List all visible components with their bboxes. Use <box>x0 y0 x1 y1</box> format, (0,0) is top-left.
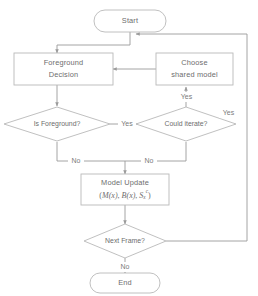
edge-label-is-foreground-no: No <box>68 156 84 166</box>
node-choose-shared-model[interactable]: Choose shared model <box>156 53 233 85</box>
node-foreground-decision-label-line2: Decision <box>49 70 79 79</box>
edge-label-could-iterate-no: No <box>141 156 157 166</box>
node-is-foreground[interactable]: Is Foreground? <box>4 107 110 141</box>
formula-close: ) <box>148 191 151 200</box>
edge-is-foreground-no-to-model-update <box>57 142 125 161</box>
node-choose-shared-model-label-line1: Choose <box>181 58 207 67</box>
node-could-iterate-label: Could iterate? <box>165 120 208 127</box>
flowchart-svg: Start Foreground Decision Choose shared … <box>0 0 258 296</box>
node-end[interactable]: End <box>90 273 160 293</box>
flowchart-canvas: Start Foreground Decision Choose shared … <box>0 0 258 296</box>
edge-label-next-frame-no: No <box>117 262 133 272</box>
svg-text:No: No <box>72 157 81 164</box>
node-start[interactable]: Start <box>94 10 166 32</box>
node-next-frame[interactable]: Next Frame? <box>84 224 166 258</box>
edge-label-could-iterate-yes: Yes <box>177 92 196 102</box>
svg-text:Yes: Yes <box>223 109 235 116</box>
svg-text:Yes: Yes <box>181 93 193 100</box>
svg-text:Yes: Yes <box>121 120 133 127</box>
node-foreground-decision[interactable]: Foreground Decision <box>14 53 113 85</box>
edge-label-next-frame-yes: Yes <box>219 108 238 118</box>
svg-text:No: No <box>145 157 154 164</box>
formula-m-arg: (x) <box>109 191 118 200</box>
edge-label-is-foreground-yes: Yes <box>118 119 136 129</box>
node-model-update-formula: (M(x), B(x), Sxc) <box>99 189 151 201</box>
formula-b-arg: (x) <box>126 191 135 200</box>
node-is-foreground-label: Is Foreground? <box>34 120 81 128</box>
node-model-update-label-line1: Model Update <box>101 178 149 187</box>
node-start-label: Start <box>122 16 138 25</box>
node-next-frame-label: Next Frame? <box>105 237 145 244</box>
node-model-update[interactable]: Model Update (M(x), B(x), Sxc) <box>81 174 169 205</box>
edge-start-to-foreground-decision <box>57 32 130 53</box>
node-end-label: End <box>118 278 132 287</box>
svg-text:No: No <box>121 263 130 270</box>
node-choose-shared-model-label-line2: shared model <box>171 70 218 79</box>
node-foreground-decision-label-line1: Foreground <box>44 58 84 67</box>
